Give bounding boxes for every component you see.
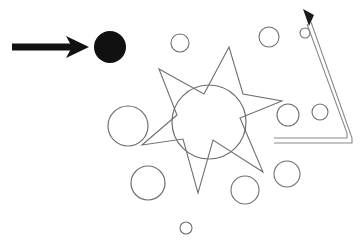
canvas-background	[0, 0, 364, 245]
shapes-scene	[0, 0, 364, 245]
diagram-canvas	[0, 0, 364, 245]
arrow-shaft	[12, 44, 72, 51]
filled-black-circle	[94, 31, 126, 63]
